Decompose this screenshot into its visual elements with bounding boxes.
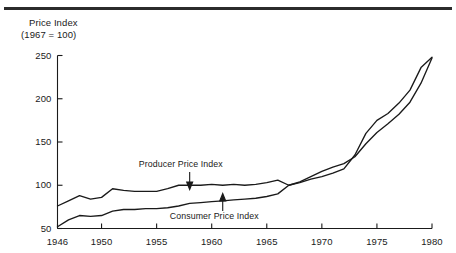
y-tick-label: 150	[22, 136, 52, 147]
line-producer-price-index	[58, 57, 433, 206]
y-tick-label: 100	[22, 179, 52, 190]
y-tick-label: 50	[22, 223, 52, 234]
y-tick-label: 200	[22, 93, 52, 104]
consumer-price-index-arrow-icon	[220, 194, 226, 212]
x-tick-label: 1980	[412, 236, 452, 247]
y-axis-ticks	[58, 56, 63, 229]
price-index-figure: Price Index (1967 = 100) 50100150200250 …	[0, 0, 456, 253]
x-tick-label: 1946	[38, 236, 78, 247]
producer-price-index-arrow-icon	[187, 172, 193, 190]
axes-group	[58, 56, 433, 229]
series-group	[58, 57, 433, 227]
annotation-consumer-price-index: Consumer Price Index	[170, 211, 259, 221]
x-tick-label: 1965	[247, 236, 287, 247]
y-tick-label: 250	[22, 50, 52, 61]
annotation-arrows	[187, 172, 226, 211]
x-tick-label: 1955	[137, 236, 177, 247]
annotation-producer-price-index: Producer Price Index	[139, 159, 223, 169]
x-tick-label: 1960	[192, 236, 232, 247]
line-consumer-price-index	[58, 58, 433, 227]
x-axis-ticks	[58, 224, 433, 229]
x-tick-label: 1975	[357, 236, 397, 247]
x-tick-label: 1970	[302, 236, 342, 247]
x-tick-label: 1950	[82, 236, 122, 247]
